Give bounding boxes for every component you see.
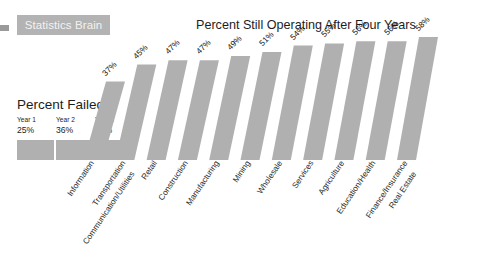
percent-failed-panel: Percent Failed Year 1 25% Year 2 36% Yea… <box>17 97 137 136</box>
percent-failed-column: Year 2 36% <box>56 115 95 136</box>
brand-badge: Statistics Brain <box>17 15 110 35</box>
percent-failed-col-value: 36% <box>56 124 95 136</box>
bar-value-label: 45% <box>132 43 150 61</box>
percent-failed-column: Year 1 25% <box>17 115 56 136</box>
bar-series <box>0 0 489 272</box>
brand-badge-label: Statistics Brain <box>25 19 103 31</box>
bar-value-label: 58% <box>414 15 432 33</box>
bar-value-label: 51% <box>257 30 275 48</box>
bar-value-label: 37% <box>101 60 119 78</box>
bar-value-label: 47% <box>195 38 213 56</box>
bar-category-label-text: Agriculture <box>317 159 346 196</box>
bar <box>334 41 375 160</box>
bar <box>303 43 344 160</box>
bar-category-label-text: Construction <box>157 159 190 202</box>
infographic-canvas: Statistics Brain Percent Still Operating… <box>0 0 489 272</box>
percent-failed-column: Year 3 44% <box>95 115 134 136</box>
percent-failed-baseline-blocks <box>17 140 132 160</box>
bar <box>397 37 438 160</box>
percent-failed-col-header: Year 2 <box>56 115 95 124</box>
percent-failed-block <box>95 140 132 160</box>
percent-failed-heading: Percent Failed <box>17 97 137 112</box>
bar <box>209 56 250 160</box>
percent-failed-block <box>17 140 54 160</box>
bar <box>178 60 219 160</box>
bar-value-label: 47% <box>163 38 181 56</box>
percent-failed-table: Year 1 25% Year 2 36% Year 3 44% <box>17 115 137 136</box>
bar <box>147 60 188 160</box>
bar-category-label-text: Mining <box>232 159 253 184</box>
bar-category-label-text: Manufacturing <box>185 159 221 207</box>
bar-category-label-text: Information <box>66 159 96 198</box>
bar-category-label-text: Services <box>290 159 315 190</box>
bar <box>241 52 282 160</box>
bar <box>366 41 407 160</box>
percent-failed-col-value: 25% <box>17 124 56 136</box>
bar <box>272 46 313 160</box>
corner-tick-icon <box>0 25 9 31</box>
bar-category-label-text: Wholesale <box>255 159 284 196</box>
bar-value-label: 49% <box>226 34 244 52</box>
bar-category-label-text: Retail <box>139 159 158 181</box>
percent-failed-col-header: Year 1 <box>17 115 56 124</box>
percent-failed-block <box>56 140 93 160</box>
percent-failed-col-header: Year 3 <box>95 115 134 124</box>
percent-failed-col-value: 44% <box>95 124 134 136</box>
